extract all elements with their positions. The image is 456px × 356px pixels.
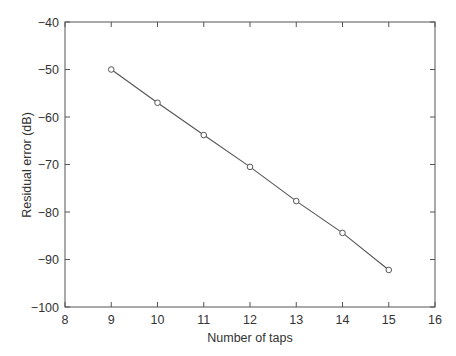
x-tick-label: 8 [62,313,69,327]
tick-labels: 8910111213141516−40−50−60−70−80−90−100 [31,16,442,328]
x-tick-label: 14 [336,313,350,327]
data-point-marker [247,164,253,170]
x-tick-label: 10 [151,313,165,327]
x-tick-label: 16 [428,313,442,327]
x-tick-label: 11 [197,313,210,327]
data-point-marker [293,198,299,204]
x-axis-label: Number of taps [207,331,292,345]
y-tick-label: −70 [38,158,59,172]
data-point-marker [108,67,114,73]
y-tick-label: −60 [38,111,59,125]
line-chart: 8910111213141516−40−50−60−70−80−90−100 N… [0,0,456,356]
x-tick-label: 9 [108,313,115,327]
data-point-marker [340,230,346,236]
data-point-marker [386,267,392,273]
y-tick-label: −50 [38,63,59,77]
y-tick-label: −90 [38,253,59,267]
x-tick-label: 15 [382,313,396,327]
y-tick-label: −80 [38,206,59,220]
data-point-marker [155,100,161,106]
x-tick-label: 13 [289,313,303,327]
data-point-marker [201,132,207,138]
x-tick-label: 12 [243,313,257,327]
y-tick-label: −100 [31,301,59,315]
y-axis-label: Residual error (dB) [20,112,34,218]
y-tick-label: −40 [38,16,59,30]
